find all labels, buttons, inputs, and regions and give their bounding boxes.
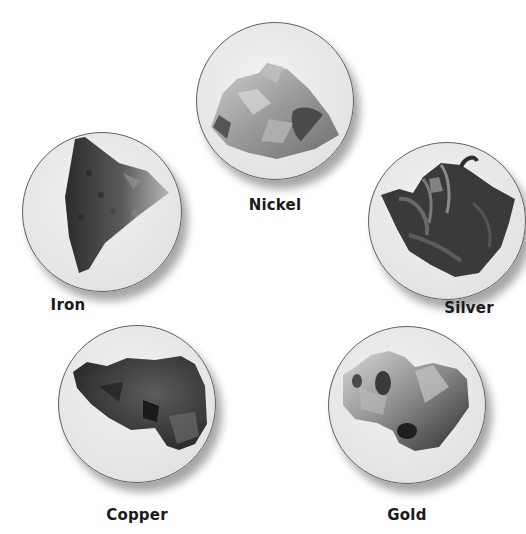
copper-ore-icon xyxy=(59,326,215,482)
gold-label: Gold xyxy=(387,506,426,524)
gold-disc xyxy=(328,326,486,484)
copper-disc xyxy=(58,325,216,483)
nickel-label: Nickel xyxy=(249,196,302,214)
nickel-disc xyxy=(196,22,354,180)
gold-nugget-icon xyxy=(329,327,485,483)
silver-ore-icon xyxy=(369,143,525,299)
silver-disc xyxy=(368,142,526,300)
nickel-ore-icon xyxy=(197,23,353,179)
iron-label: Iron xyxy=(51,296,86,314)
copper-label: Copper xyxy=(106,506,168,524)
silver-label: Silver xyxy=(444,299,494,317)
iron-disc xyxy=(22,132,182,292)
iron-ore-icon xyxy=(23,133,181,291)
